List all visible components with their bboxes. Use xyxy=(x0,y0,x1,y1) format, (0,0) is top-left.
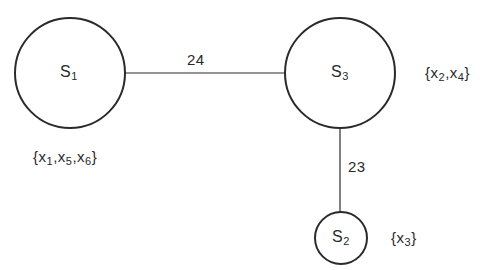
members-part: ,x xyxy=(445,64,458,81)
node-s1-members: {x1,x5,x6} xyxy=(33,148,97,167)
node-s3-subscript: 3 xyxy=(342,70,349,82)
node-s1-label: S1 xyxy=(60,63,78,82)
members-part: } xyxy=(411,229,417,246)
node-s1-subscript: 1 xyxy=(71,70,78,82)
edge-s1-s3-weight: 24 xyxy=(187,51,205,68)
edge-s3-s2-weight: 23 xyxy=(348,158,366,175)
node-s3-label: S3 xyxy=(331,63,349,82)
members-sub: 6 xyxy=(85,155,92,167)
node-s3-members: {x2,x4} xyxy=(425,64,470,83)
node-s2-label: S2 xyxy=(332,228,350,247)
node-s3-name: S xyxy=(331,63,342,80)
members-part: } xyxy=(464,64,470,81)
members-part: {x xyxy=(425,64,439,81)
node-s2-name: S xyxy=(332,228,343,245)
members-part: ,x xyxy=(53,148,66,165)
members-part: {x xyxy=(391,229,405,246)
members-part: ,x xyxy=(72,148,85,165)
node-s2-members: {x3} xyxy=(391,229,417,248)
members-part: } xyxy=(92,148,98,165)
node-s2-subscript: 2 xyxy=(343,235,350,247)
node-s1-name: S xyxy=(60,63,71,80)
members-part: {x xyxy=(33,148,47,165)
diagram-canvas xyxy=(0,0,504,270)
